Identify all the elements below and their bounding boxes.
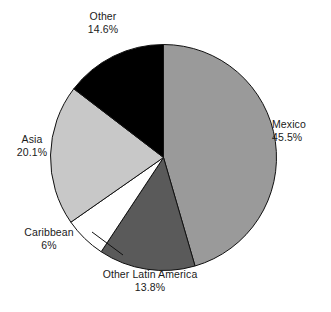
slice-label-other-name: Other xyxy=(53,10,153,23)
slice-label-other-value: 14.6% xyxy=(53,23,153,36)
slice-label-caribbean: Caribbean 6% xyxy=(7,226,91,252)
slice-label-other: Other 14.6% xyxy=(53,10,153,36)
slice-label-mexico-name: Mexico xyxy=(272,118,331,131)
slice-label-asia-value: 20.1% xyxy=(1,146,63,159)
slice-label-mexico: Mexico 45.5% xyxy=(272,118,331,144)
slice-label-other-latin-america-value: 13.8% xyxy=(72,281,228,294)
slice-label-other-latin-america-name: Other Latin America xyxy=(72,268,228,281)
slice-label-asia-name: Asia xyxy=(1,133,63,146)
slice-label-caribbean-name: Caribbean xyxy=(7,226,91,239)
slice-label-other-latin-america: Other Latin America 13.8% xyxy=(72,268,228,294)
pie-chart: Other 14.6% Mexico 45.5% Asia 20.1% Cari… xyxy=(0,0,331,312)
slice-label-mexico-value: 45.5% xyxy=(272,131,331,144)
slice-label-asia: Asia 20.1% xyxy=(1,133,63,159)
slice-label-caribbean-value: 6% xyxy=(7,239,91,252)
